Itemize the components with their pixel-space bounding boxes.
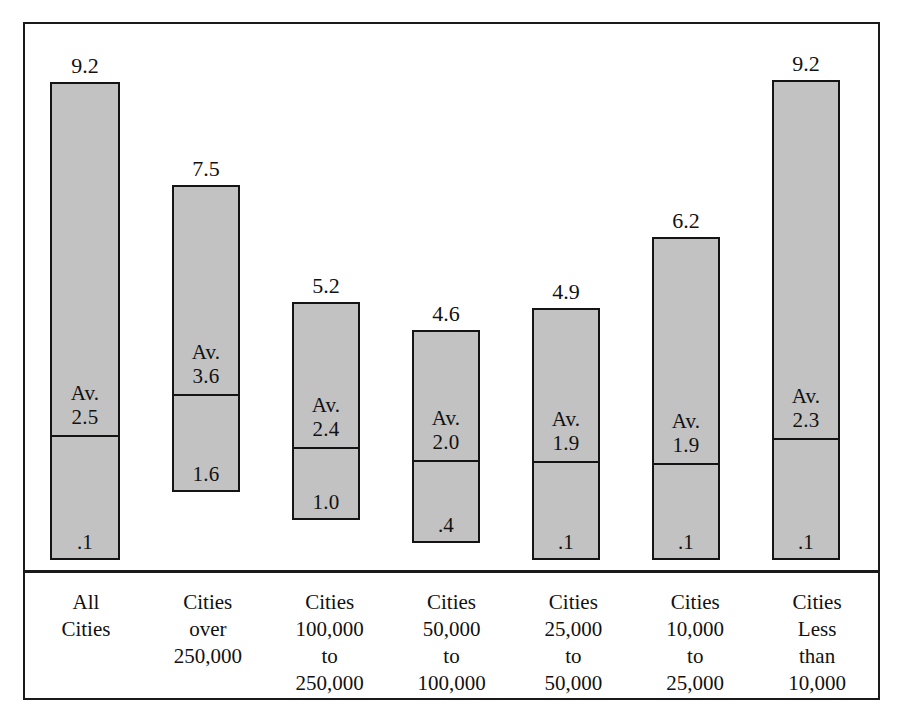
bar-range-box: Av.2.5.1 bbox=[50, 82, 120, 560]
category-label-line: Less bbox=[756, 616, 878, 643]
category-label: CitiesLessthan10,000 bbox=[756, 573, 878, 698]
bar-max-value-label: 5.2 bbox=[274, 274, 378, 298]
bar-average-value: 2.5 bbox=[52, 405, 118, 429]
bar-lower-segment: .1 bbox=[654, 465, 718, 560]
category-label-line: Cities bbox=[269, 589, 391, 616]
category-label-line: than bbox=[756, 643, 878, 670]
category-label-line: Cities bbox=[391, 589, 513, 616]
bar-lower-segment: .1 bbox=[52, 437, 118, 560]
bar-range-box: Av.2.0.4 bbox=[412, 330, 480, 543]
category-label-line: Cities bbox=[634, 589, 756, 616]
bar-upper-segment: Av.2.4 bbox=[294, 304, 358, 449]
bar-lower-segment: .1 bbox=[774, 440, 838, 560]
category-label-line: to bbox=[391, 643, 513, 670]
bar-min-value-label: 1.6 bbox=[174, 462, 238, 486]
bar-group: 4.9Av.1.9.1 bbox=[532, 24, 600, 570]
category-label-line: to bbox=[634, 643, 756, 670]
bar-average-label: Av.2.0 bbox=[414, 406, 478, 454]
category-label: Citiesover250,000 bbox=[147, 573, 269, 698]
bar-max-value-label: 4.6 bbox=[394, 302, 498, 326]
bar-max-value-label: 6.2 bbox=[634, 209, 738, 233]
category-label-line: over bbox=[147, 616, 269, 643]
category-label: Cities50,000to100,000 bbox=[391, 573, 513, 698]
category-label-line: 25,000 bbox=[512, 616, 634, 643]
category-label-line: 10,000 bbox=[756, 670, 878, 697]
bar-average-label: Av.2.4 bbox=[294, 393, 358, 441]
bar-average-label: Av.1.9 bbox=[534, 407, 598, 455]
bar-group: 5.2Av.2.41.0 bbox=[292, 24, 360, 570]
bar-max-value-label: 9.2 bbox=[32, 54, 138, 78]
category-label-line: Cities bbox=[147, 589, 269, 616]
category-label-line: to bbox=[512, 643, 634, 670]
bar-average-label: Av.2.3 bbox=[774, 384, 838, 432]
category-label-line: 50,000 bbox=[391, 616, 513, 643]
category-label: Cities25,000to50,000 bbox=[512, 573, 634, 698]
bar-range-box: Av.2.41.0 bbox=[292, 302, 360, 520]
bar-average-value: 1.9 bbox=[654, 433, 718, 457]
bar-max-value-label: 4.9 bbox=[514, 280, 618, 304]
bar-lower-segment: 1.6 bbox=[174, 396, 238, 492]
bar-upper-segment: Av.2.0 bbox=[414, 332, 478, 462]
bar-min-value-label: .1 bbox=[52, 530, 118, 554]
category-label-line: 50,000 bbox=[512, 670, 634, 697]
category-label-line: All bbox=[25, 589, 147, 616]
bar-average-value: 2.4 bbox=[294, 417, 358, 441]
bar-min-value-label: .1 bbox=[654, 530, 718, 554]
bar-max-value-label: 9.2 bbox=[754, 52, 858, 76]
bar-group: 9.2Av.2.5.1 bbox=[50, 24, 120, 570]
chart-figure: 9.2Av.2.5.17.5Av.3.61.65.2Av.2.41.04.6Av… bbox=[0, 0, 904, 721]
category-label-line: Cities bbox=[25, 616, 147, 643]
bar-upper-segment: Av.2.3 bbox=[774, 82, 838, 440]
bar-average-value: 2.3 bbox=[774, 408, 838, 432]
bar-min-value-label: .1 bbox=[774, 530, 838, 554]
bar-average-value: 1.9 bbox=[534, 431, 598, 455]
category-label: AllCities bbox=[25, 573, 147, 698]
bar-upper-segment: Av.3.6 bbox=[174, 187, 238, 396]
category-label-line: 250,000 bbox=[269, 670, 391, 697]
bar-average-label: Av.3.6 bbox=[174, 340, 238, 388]
plot-area: 9.2Av.2.5.17.5Av.3.61.65.2Av.2.41.04.6Av… bbox=[25, 24, 878, 570]
bar-group: 9.2Av.2.3.1 bbox=[772, 24, 840, 570]
bar-average-prefix: Av. bbox=[414, 406, 478, 430]
bar-min-value-label: 1.0 bbox=[294, 490, 358, 514]
category-label-band: AllCitiesCitiesover250,000Cities100,000t… bbox=[25, 570, 878, 698]
bar-lower-segment: .1 bbox=[534, 463, 598, 560]
category-label-line: 10,000 bbox=[634, 616, 756, 643]
category-label-line: 100,000 bbox=[391, 670, 513, 697]
category-label-line: 250,000 bbox=[147, 643, 269, 670]
category-label-line: Cities bbox=[512, 589, 634, 616]
category-label-line: 100,000 bbox=[269, 616, 391, 643]
bar-group: 4.6Av.2.0.4 bbox=[412, 24, 480, 570]
bar-range-box: Av.3.61.6 bbox=[172, 185, 240, 492]
category-label-line: to bbox=[269, 643, 391, 670]
bar-average-prefix: Av. bbox=[52, 381, 118, 405]
bar-min-value-label: .4 bbox=[414, 513, 478, 537]
bar-lower-segment: .4 bbox=[414, 462, 478, 543]
bar-average-prefix: Av. bbox=[294, 393, 358, 417]
bar-range-box: Av.1.9.1 bbox=[652, 237, 720, 560]
bar-average-prefix: Av. bbox=[174, 340, 238, 364]
bar-range-box: Av.1.9.1 bbox=[532, 308, 600, 560]
bar-upper-segment: Av.1.9 bbox=[654, 239, 718, 465]
bar-group: 6.2Av.1.9.1 bbox=[652, 24, 720, 570]
bar-upper-segment: Av.1.9 bbox=[534, 310, 598, 463]
bar-average-label: Av.2.5 bbox=[52, 381, 118, 429]
bar-range-box: Av.2.3.1 bbox=[772, 80, 840, 560]
bar-average-prefix: Av. bbox=[654, 409, 718, 433]
bar-upper-segment: Av.2.5 bbox=[52, 84, 118, 437]
bar-average-value: 3.6 bbox=[174, 364, 238, 388]
bar-average-value: 2.0 bbox=[414, 430, 478, 454]
bar-average-prefix: Av. bbox=[774, 384, 838, 408]
category-label: Cities10,000to25,000 bbox=[634, 573, 756, 698]
bar-min-value-label: .1 bbox=[534, 530, 598, 554]
bar-max-value-label: 7.5 bbox=[154, 157, 258, 181]
bar-average-label: Av.1.9 bbox=[654, 409, 718, 457]
bar-group: 7.5Av.3.61.6 bbox=[172, 24, 240, 570]
category-label-line: 25,000 bbox=[634, 670, 756, 697]
bar-average-prefix: Av. bbox=[534, 407, 598, 431]
category-label-line: Cities bbox=[756, 589, 878, 616]
category-label: Cities100,000to250,000 bbox=[269, 573, 391, 698]
bar-lower-segment: 1.0 bbox=[294, 449, 358, 520]
